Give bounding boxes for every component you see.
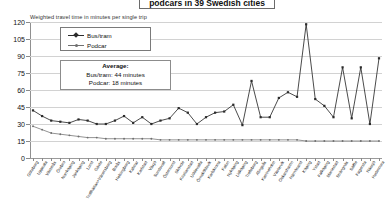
- average-heading: Average:: [102, 62, 128, 71]
- data-point: [296, 96, 298, 98]
- data-point: [332, 116, 334, 118]
- data-point: [32, 109, 34, 111]
- data-point: [214, 112, 216, 114]
- data-point: [96, 123, 98, 125]
- data-point: [241, 139, 243, 141]
- y-axis-label-105: 105: [0, 36, 25, 43]
- data-point: [260, 139, 262, 141]
- data-point: [77, 118, 79, 120]
- data-point: [68, 134, 70, 136]
- data-point: [141, 138, 143, 140]
- data-point: [278, 139, 280, 141]
- data-point: [296, 139, 298, 141]
- data-point: [232, 104, 234, 106]
- legend-item-podcar: Podcar: [61, 40, 150, 50]
- chart-title-box: podcars in 39 Swedish cities: [139, 0, 275, 9]
- series-line-podcar: [33, 126, 379, 141]
- data-point: [105, 123, 107, 125]
- data-point: [241, 124, 243, 126]
- data-point: [87, 120, 89, 122]
- data-point: [323, 105, 325, 107]
- y-axis-label-45: 45: [0, 104, 25, 111]
- average-annotation-box: Average: Bus/tram: 44 minutes Podcar: 18…: [60, 60, 171, 90]
- data-point: [214, 139, 216, 141]
- data-point: [369, 123, 371, 125]
- data-point: [287, 91, 289, 93]
- data-point: [59, 121, 61, 123]
- y-axis-label-15: 15: [0, 138, 25, 145]
- bus-tram-marker-icon: [68, 31, 84, 39]
- data-point: [187, 112, 189, 114]
- data-point: [68, 122, 70, 124]
- data-point: [132, 138, 134, 140]
- y-axis-label-0: 0: [0, 155, 25, 162]
- data-point: [78, 136, 80, 138]
- data-point: [314, 98, 316, 100]
- data-point: [269, 139, 271, 141]
- data-point: [159, 120, 161, 122]
- data-point: [341, 66, 343, 68]
- data-point: [96, 137, 98, 139]
- data-point: [32, 125, 34, 127]
- data-point: [50, 132, 52, 134]
- legend-label-podcar: Podcar: [87, 42, 107, 49]
- data-point: [251, 139, 253, 141]
- average-bus-tram: Bus/tram: 44 minutes: [86, 71, 144, 80]
- data-point: [351, 117, 353, 119]
- data-point: [187, 139, 189, 141]
- data-point: [150, 138, 152, 140]
- x-axis-labels: GöteborgUppsalaVästeråsÖrebroNorrköpingJ…: [30, 160, 382, 209]
- data-point: [178, 139, 180, 141]
- data-point: [196, 123, 198, 125]
- y-axis-label-120: 120: [0, 19, 25, 26]
- data-point: [123, 115, 125, 117]
- data-point: [287, 139, 289, 141]
- data-point: [41, 115, 43, 117]
- data-point: [223, 110, 225, 112]
- data-point: [342, 140, 344, 142]
- chart-subtitle: Weighted travel time in minutes per sing…: [30, 14, 147, 20]
- data-point: [160, 139, 162, 141]
- data-point: [378, 57, 380, 59]
- data-point: [141, 116, 143, 118]
- data-point: [105, 138, 107, 140]
- data-point: [323, 140, 325, 142]
- data-point: [360, 66, 362, 68]
- average-podcar: Podcar: 18 minutes: [89, 79, 142, 88]
- data-point: [205, 116, 207, 118]
- data-point: [205, 139, 207, 141]
- y-axis-label-60: 60: [0, 87, 25, 94]
- data-point: [150, 123, 152, 125]
- data-point: [168, 117, 170, 119]
- data-point: [169, 139, 171, 141]
- data-point: [378, 140, 380, 142]
- data-point: [269, 116, 271, 118]
- legend-label-bus-tram: Bus/tram: [87, 32, 112, 39]
- y-axis-label-30: 30: [0, 121, 25, 128]
- data-point: [278, 97, 280, 99]
- data-point: [305, 23, 307, 25]
- data-point: [114, 138, 116, 140]
- data-point: [351, 140, 353, 142]
- y-axis-label-75: 75: [0, 70, 25, 77]
- data-point: [250, 80, 252, 82]
- legend-item-bus-tram: Bus/tram: [61, 30, 150, 40]
- data-point: [360, 140, 362, 142]
- y-axis-label-90: 90: [0, 53, 25, 60]
- chart-title: podcars in 39 Swedish cities: [149, 0, 265, 8]
- chart-screenshot: podcars in 39 Swedish cities Weighted tr…: [0, 0, 385, 209]
- podcar-marker-icon: [68, 41, 84, 49]
- data-point: [260, 116, 262, 118]
- data-point: [50, 120, 52, 122]
- data-point: [178, 107, 180, 109]
- chart-legend: Bus/tram Podcar: [60, 27, 151, 51]
- data-point: [114, 120, 116, 122]
- data-point: [369, 140, 371, 142]
- data-point: [314, 140, 316, 142]
- data-point: [59, 133, 61, 135]
- data-point: [196, 139, 198, 141]
- y-tick-0: [26, 158, 30, 159]
- data-point: [232, 139, 234, 141]
- data-point: [333, 140, 335, 142]
- data-point: [41, 129, 43, 131]
